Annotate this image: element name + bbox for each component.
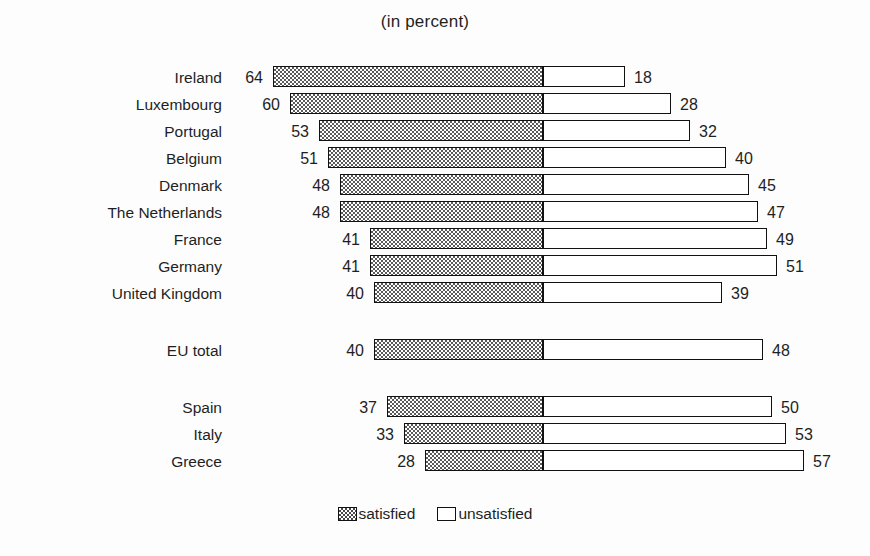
unsatisfied-value-label: 57 bbox=[813, 451, 831, 472]
category-label: Belgium bbox=[0, 148, 222, 169]
category-label: United Kingdom bbox=[0, 283, 222, 304]
chart-title: (in percent) bbox=[0, 12, 850, 32]
legend-entry-satisfied: satisfied bbox=[338, 505, 416, 523]
bar-satisfied bbox=[273, 66, 543, 87]
category-label: Luxembourg bbox=[0, 94, 222, 115]
unsatisfied-value-label: 18 bbox=[634, 67, 652, 88]
unsatisfied-value-label: 45 bbox=[758, 175, 776, 196]
category-label: The Netherlands bbox=[0, 202, 222, 223]
category-label: Portugal bbox=[0, 121, 222, 142]
chart-row: United Kingdom4039 bbox=[0, 282, 870, 304]
bar-satisfied bbox=[328, 147, 543, 168]
category-label: EU total bbox=[0, 340, 222, 361]
chart-row: Denmark4845 bbox=[0, 174, 870, 196]
bar-unsatisfied bbox=[543, 201, 758, 222]
satisfied-value-label: 41 bbox=[322, 229, 360, 250]
bar-unsatisfied bbox=[543, 147, 726, 168]
satisfied-value-label: 28 bbox=[377, 451, 415, 472]
bar-satisfied bbox=[370, 228, 543, 249]
chart-row: Italy3353 bbox=[0, 423, 870, 445]
satisfied-value-label: 37 bbox=[339, 397, 377, 418]
category-label: Spain bbox=[0, 397, 222, 418]
bar-unsatisfied bbox=[543, 255, 777, 276]
chart-legend: satisfiedunsatisfied bbox=[0, 505, 870, 523]
legend-swatch-satisfied-icon bbox=[338, 507, 357, 521]
chart-row: Portugal5332 bbox=[0, 120, 870, 142]
unsatisfied-value-label: 28 bbox=[680, 94, 698, 115]
unsatisfied-value-label: 51 bbox=[786, 256, 804, 277]
bar-unsatisfied bbox=[543, 228, 767, 249]
bar-unsatisfied bbox=[543, 174, 749, 195]
plot-area: Ireland6418Luxembourg6028Portugal5332Bel… bbox=[0, 58, 870, 483]
bar-unsatisfied bbox=[543, 396, 772, 417]
category-label: Italy bbox=[0, 424, 222, 445]
unsatisfied-value-label: 49 bbox=[776, 229, 794, 250]
chart-row: Greece2857 bbox=[0, 450, 870, 472]
category-label: Ireland bbox=[0, 67, 222, 88]
legend-label: unsatisfied bbox=[458, 505, 532, 523]
bar-satisfied bbox=[290, 93, 543, 114]
legend-swatch-unsatisfied-icon bbox=[437, 507, 456, 521]
bar-satisfied bbox=[387, 396, 543, 417]
satisfied-value-label: 51 bbox=[280, 148, 318, 169]
bar-satisfied bbox=[425, 450, 543, 471]
chart-row: France4149 bbox=[0, 228, 870, 250]
unsatisfied-value-label: 32 bbox=[699, 121, 717, 142]
bar-unsatisfied bbox=[543, 339, 763, 360]
satisfied-value-label: 40 bbox=[326, 283, 364, 304]
satisfied-value-label: 48 bbox=[292, 202, 330, 223]
category-label: Germany bbox=[0, 256, 222, 277]
satisfied-value-label: 48 bbox=[292, 175, 330, 196]
bar-satisfied bbox=[340, 201, 543, 222]
bar-unsatisfied bbox=[543, 450, 804, 471]
satisfied-value-label: 41 bbox=[322, 256, 360, 277]
unsatisfied-value-label: 47 bbox=[767, 202, 785, 223]
legend-entry-unsatisfied: unsatisfied bbox=[437, 505, 532, 523]
unsatisfied-value-label: 50 bbox=[781, 397, 799, 418]
satisfied-value-label: 60 bbox=[242, 94, 280, 115]
chart-row: Luxembourg6028 bbox=[0, 93, 870, 115]
category-label: Denmark bbox=[0, 175, 222, 196]
bar-unsatisfied bbox=[543, 93, 671, 114]
chart-row: Spain3750 bbox=[0, 396, 870, 418]
chart-row: EU total4048 bbox=[0, 339, 870, 361]
bar-satisfied bbox=[374, 282, 543, 303]
unsatisfied-value-label: 40 bbox=[735, 148, 753, 169]
satisfied-value-label: 64 bbox=[225, 67, 263, 88]
satisfied-value-label: 33 bbox=[356, 424, 394, 445]
category-label: Greece bbox=[0, 451, 222, 472]
unsatisfied-value-label: 48 bbox=[772, 340, 790, 361]
unsatisfied-value-label: 53 bbox=[795, 424, 813, 445]
chart-row: Belgium5140 bbox=[0, 147, 870, 169]
satisfied-value-label: 40 bbox=[326, 340, 364, 361]
category-label: France bbox=[0, 229, 222, 250]
bar-satisfied bbox=[370, 255, 543, 276]
bar-satisfied bbox=[374, 339, 543, 360]
unsatisfied-value-label: 39 bbox=[731, 283, 749, 304]
chart-root: (in percent) Ireland6418Luxembourg6028Po… bbox=[0, 0, 870, 556]
chart-row: The Netherlands4847 bbox=[0, 201, 870, 223]
legend-label: satisfied bbox=[359, 505, 416, 523]
bar-unsatisfied bbox=[543, 282, 722, 303]
bar-satisfied bbox=[340, 174, 543, 195]
bar-unsatisfied bbox=[543, 120, 690, 141]
bar-satisfied bbox=[404, 423, 543, 444]
bar-satisfied bbox=[319, 120, 543, 141]
satisfied-value-label: 53 bbox=[271, 121, 309, 142]
chart-row: Ireland6418 bbox=[0, 66, 870, 88]
bar-unsatisfied bbox=[543, 423, 786, 444]
chart-row: Germany4151 bbox=[0, 255, 870, 277]
bar-unsatisfied bbox=[543, 66, 625, 87]
